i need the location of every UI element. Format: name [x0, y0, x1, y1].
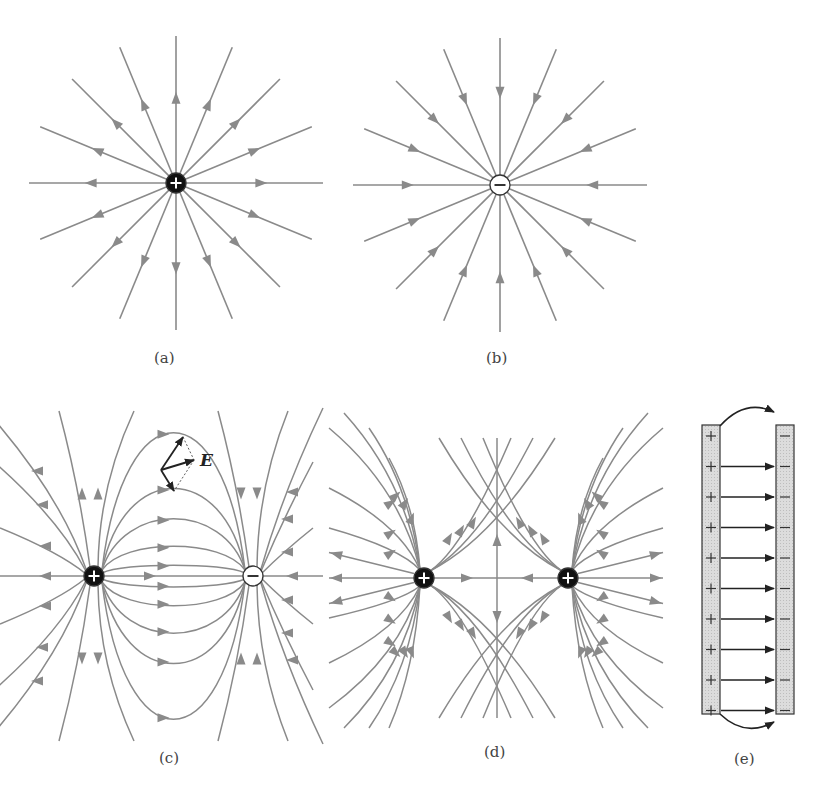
field-line	[183, 190, 280, 287]
field-line	[461, 438, 562, 571]
field-line	[261, 581, 313, 690]
positive-charge	[558, 568, 578, 588]
negative-plate	[776, 425, 794, 714]
field-line	[504, 49, 556, 176]
label-e: (e)	[734, 750, 755, 768]
field-line	[507, 192, 604, 289]
field-line	[396, 81, 493, 178]
field-line	[59, 411, 90, 567]
field-line	[102, 579, 245, 587]
label-a: (a)	[154, 349, 175, 367]
field-line	[72, 79, 169, 176]
field-line	[396, 192, 493, 289]
field-line	[102, 546, 245, 570]
field-line	[0, 528, 86, 574]
field-line	[102, 582, 245, 606]
field-line	[183, 79, 280, 176]
field-line	[261, 462, 313, 571]
field-line	[72, 190, 169, 287]
panel-c-dipole: E	[0, 408, 323, 744]
panel-d-two-positive-charges	[329, 413, 663, 728]
field-line	[439, 438, 562, 571]
positive-charge	[84, 566, 104, 586]
field-line	[507, 81, 604, 178]
panel-a-positive-charge	[29, 36, 323, 330]
field-line	[444, 194, 496, 321]
field-line	[102, 565, 245, 573]
label-d: (d)	[484, 743, 505, 761]
field-line	[439, 585, 562, 718]
field-line	[102, 582, 245, 719]
field-line	[120, 47, 172, 174]
field-line	[430, 585, 533, 718]
positive-charge	[414, 568, 434, 588]
field-line	[180, 47, 232, 174]
field-line	[180, 192, 232, 319]
field-line	[461, 585, 562, 718]
field-line	[185, 127, 312, 179]
field-line	[509, 189, 636, 241]
field-line	[0, 578, 86, 624]
positive-plate	[702, 425, 720, 716]
field-line	[0, 462, 86, 571]
field-line	[0, 581, 86, 690]
field-line	[504, 194, 556, 321]
field-line	[102, 488, 245, 570]
field-line	[102, 582, 245, 664]
field-line	[364, 129, 491, 181]
field-line	[572, 586, 663, 618]
fringe-arrow-bottom	[720, 714, 774, 728]
field-line	[430, 438, 533, 571]
negative-charge	[490, 175, 510, 195]
panel-b-negative-charge	[353, 38, 647, 332]
field-line	[40, 187, 167, 239]
label-b: (b)	[486, 349, 507, 367]
positive-charge	[166, 173, 186, 193]
field-line	[364, 189, 491, 241]
field-line	[329, 586, 420, 618]
negative-charge	[243, 566, 263, 586]
field-line	[59, 585, 90, 741]
fringe-arrow-top	[720, 407, 774, 426]
field-line	[120, 192, 172, 319]
e-vector-label: E	[199, 450, 214, 470]
field-line	[509, 129, 636, 181]
field-line	[185, 187, 312, 239]
label-c: (c)	[159, 749, 179, 767]
field-line	[102, 519, 245, 570]
field-line	[444, 49, 496, 176]
field-line	[102, 582, 245, 633]
electric-field-figure: E	[0, 0, 829, 801]
field-line	[40, 127, 167, 179]
e-field-vector-diagram: E	[161, 437, 214, 491]
field-line	[102, 433, 245, 570]
panel-e-parallel-plates	[702, 407, 794, 728]
